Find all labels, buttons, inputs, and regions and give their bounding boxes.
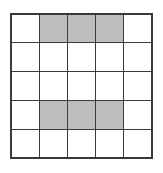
- grid-cell-r3c3[interactable]: [67, 72, 95, 101]
- grid-row: [11, 14, 152, 43]
- grid-cell-r3c1[interactable]: [11, 72, 39, 101]
- grid-cell-r1c1[interactable]: [11, 14, 39, 43]
- grid-row: [11, 100, 152, 129]
- grid-cell-r4c4[interactable]: [96, 100, 124, 129]
- grid-cell-r1c4[interactable]: [96, 14, 124, 43]
- grid-row: [11, 129, 152, 158]
- grid-cell-r1c2[interactable]: [39, 14, 67, 43]
- screenshot-canvas: [0, 0, 163, 173]
- grid-cell-r4c5[interactable]: [124, 100, 152, 129]
- grid-body: [11, 14, 152, 158]
- grid-cell-r3c2[interactable]: [39, 72, 67, 101]
- grid-cell-r1c5[interactable]: [124, 14, 152, 43]
- grid-cell-r2c3[interactable]: [67, 43, 95, 72]
- grid-cell-r5c1[interactable]: [11, 129, 39, 158]
- grid-cell-r4c3[interactable]: [67, 100, 95, 129]
- grid-cell-r5c2[interactable]: [39, 129, 67, 158]
- grid-row: [11, 72, 152, 101]
- grid-cell-r1c3[interactable]: [67, 14, 95, 43]
- grid-row: [11, 43, 152, 72]
- grid-cell-r4c1[interactable]: [11, 100, 39, 129]
- grid-cell-r5c4[interactable]: [96, 129, 124, 158]
- grid-figure: [10, 13, 153, 159]
- grid-cell-r5c5[interactable]: [124, 129, 152, 158]
- grid-cell-r3c4[interactable]: [96, 72, 124, 101]
- grid-table: [10, 13, 153, 159]
- grid-cell-r2c4[interactable]: [96, 43, 124, 72]
- grid-cell-r4c2[interactable]: [39, 100, 67, 129]
- grid-cell-r5c3[interactable]: [67, 129, 95, 158]
- grid-cell-r2c1[interactable]: [11, 43, 39, 72]
- grid-cell-r2c2[interactable]: [39, 43, 67, 72]
- grid-cell-r2c5[interactable]: [124, 43, 152, 72]
- grid-cell-r3c5[interactable]: [124, 72, 152, 101]
